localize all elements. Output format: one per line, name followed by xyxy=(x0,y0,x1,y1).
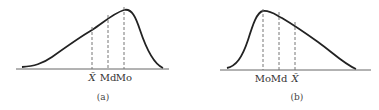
mode-label-a: Mo xyxy=(116,72,132,83)
panel-a: X̄ Md Mo (a) xyxy=(16,7,169,102)
median-label-b: Md xyxy=(271,73,288,84)
mode-label-b: Mo xyxy=(255,73,271,84)
curve-b xyxy=(227,11,356,69)
caption-b: (b) xyxy=(291,92,304,102)
mean-label-b: X̄ xyxy=(290,73,299,84)
panel-b: Mo Md X̄ (b) xyxy=(220,9,371,102)
median-label-a: Md xyxy=(100,72,117,83)
caption-a: (a) xyxy=(97,92,109,102)
mean-label-a: X̄ xyxy=(87,72,96,83)
skewness-diagram: X̄ Md Mo (a) Mo Md X̄ (b) xyxy=(0,0,379,110)
